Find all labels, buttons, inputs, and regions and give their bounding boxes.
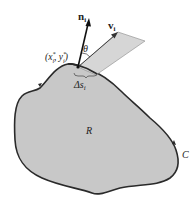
region-r [15, 64, 178, 194]
region-label: R [85, 125, 92, 136]
curve-label: C [182, 149, 189, 160]
flux-diagram: ni vi θ (x*i, y*i) Δsi R C [0, 0, 196, 198]
angle-label: θ [83, 43, 88, 54]
point-label: (x*i, y*i) [45, 51, 68, 64]
sample-point [76, 65, 79, 68]
normal-label: ni [78, 10, 86, 24]
normal-arrowhead-icon [86, 18, 92, 27]
velocity-label: vi [108, 19, 116, 33]
